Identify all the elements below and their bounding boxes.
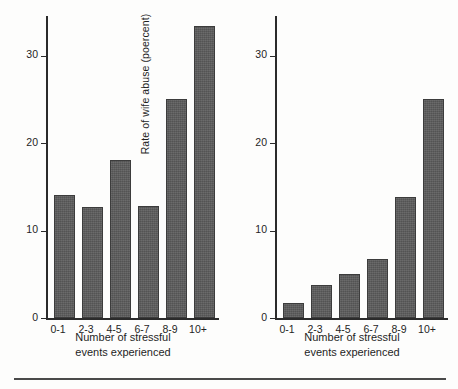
chart-panel-child-abuse: Rate of child abuse (poercent) 0 10 20 3… — [0, 0, 229, 389]
y-tick-label-10-right: 10 — [255, 223, 267, 235]
y-tick-0-right: 0 — [270, 318, 275, 319]
x-axis-label-left: Number of stressful events experienced — [28, 330, 218, 360]
bar-right-0-1 — [283, 303, 304, 318]
bar-right-10plus — [423, 99, 444, 318]
chart-panel-wife-abuse: Rate of wife abuse (poercent) 0 10 20 30… — [229, 0, 458, 389]
x-axis-line-left — [46, 318, 219, 320]
bar-group-right — [275, 16, 451, 318]
bar-left-4-5 — [110, 160, 131, 318]
y-tick-label-0-right: 0 — [261, 311, 267, 323]
x-axis-label-right-line1: Number of stressful — [257, 330, 447, 345]
bar-group-left — [46, 16, 222, 318]
figure-page: Rate of child abuse (poercent) 0 10 20 3… — [0, 0, 458, 389]
bar-right-2-3 — [311, 285, 332, 318]
y-tick-label-20-right: 20 — [255, 136, 267, 148]
x-axis-label-left-line2: events experienced — [28, 345, 218, 360]
y-tick-label-10-left: 10 — [26, 223, 38, 235]
y-tick-0-left: 0 — [41, 318, 46, 319]
y-tick-label-30-right: 30 — [255, 48, 267, 60]
plot-area-right: 0 10 20 30 0-12-34-56-78-910+ — [275, 16, 451, 318]
bar-left-6-7 — [138, 206, 159, 318]
bar-right-4-5 — [339, 274, 360, 318]
page-bottom-rule — [14, 378, 446, 380]
bar-left-8-9 — [166, 99, 187, 318]
y-tick-label-30-left: 30 — [26, 48, 38, 60]
y-tick-label-20-left: 20 — [26, 136, 38, 148]
bar-right-6-7 — [367, 259, 388, 318]
x-axis-label-right-line2: events experienced — [257, 345, 447, 360]
bar-left-0-1 — [54, 195, 75, 318]
bar-right-8-9 — [395, 197, 416, 318]
y-axis-label-right: Rate of wife abuse (poercent) — [139, 0, 157, 184]
x-axis-label-left-line1: Number of stressful — [28, 330, 218, 345]
x-axis-line-right — [275, 318, 448, 320]
bar-left-2-3 — [82, 207, 103, 318]
plot-area-left: 0 10 20 30 0-12-34-56-78-910+ — [46, 16, 222, 318]
bar-left-10plus — [194, 26, 215, 318]
x-axis-label-right: Number of stressful events experienced — [257, 330, 447, 360]
y-tick-label-0-left: 0 — [32, 311, 38, 323]
